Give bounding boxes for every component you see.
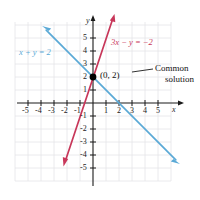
x-tick-label-2: 2 — [117, 107, 121, 115]
x-tick-label--2: -2 — [61, 107, 68, 115]
y-axis-arrow — [91, 15, 96, 21]
x-tick-label-3: 3 — [130, 107, 134, 115]
y-tick-label-5: 5 — [83, 34, 87, 42]
y-tick-label--1: -1 — [80, 112, 87, 120]
axis-lines — [17, 18, 181, 186]
callout-leader-line — [132, 69, 153, 72]
y-tick-label-2: 2 — [83, 73, 87, 81]
x-tick-label-1: 1 — [104, 107, 108, 115]
x-tick-label--5: -5 — [22, 107, 29, 115]
callout-line-2: solution — [155, 74, 194, 85]
x-tick-label-5: 5 — [156, 107, 160, 115]
x-tick-label--4: -4 — [35, 107, 42, 115]
intersection-point-label: (0, 2) — [100, 71, 120, 80]
coordinate-plane — [0, 0, 200, 200]
graph-figure: -5 -4 -3 -2 -1 1 2 3 4 5 5 4 3 2 1 -1 -2… — [0, 0, 200, 200]
x-axis-label: x — [172, 106, 176, 114]
equation-label-red: 3x − y = −2 — [111, 38, 153, 47]
y-tick-label--2: -2 — [80, 125, 87, 133]
x-tick-label--3: -3 — [48, 107, 55, 115]
equation-label-blue: x + y = 2 — [19, 48, 51, 57]
callout-line-1: Common — [155, 63, 194, 74]
y-tick-label--5: -5 — [80, 164, 87, 172]
y-tick-label--4: -4 — [80, 151, 87, 159]
y-axis-label: y — [86, 17, 90, 25]
x-tick-label-4: 4 — [143, 107, 147, 115]
y-tick-label-1: 1 — [83, 86, 87, 94]
x-axis-arrow — [178, 101, 184, 106]
y-tick-label-4: 4 — [83, 47, 87, 55]
intersection-point-dot — [90, 74, 97, 81]
common-solution-callout: Common solution — [155, 63, 194, 85]
axis-arrowheads — [91, 15, 184, 105]
y-tick-label-3: 3 — [83, 60, 87, 68]
y-tick-label--3: -3 — [80, 138, 87, 146]
